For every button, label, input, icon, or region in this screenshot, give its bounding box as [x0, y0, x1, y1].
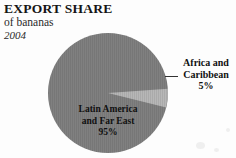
latin-label-line2: and Far East	[58, 116, 158, 128]
africa-label-line1: Africa and	[178, 57, 234, 69]
africa-label-line2: Caribbean	[178, 69, 234, 81]
slice-label-africa-and-caribbean: Africa and Caribbean 5%	[178, 57, 234, 92]
callout-leader-line	[165, 76, 178, 77]
africa-label-percent: 5%	[178, 80, 234, 92]
chart-year: 2004	[4, 29, 112, 42]
page-title: EXPORT SHARE	[4, 1, 112, 16]
slice-label-latin-america-and-far-east: Latin America and Far East 95%	[58, 104, 158, 139]
latin-label-line1: Latin America	[58, 104, 158, 116]
chart-subtitle: of bananas	[4, 16, 112, 29]
latin-label-percent: 95%	[58, 127, 158, 139]
figure-header: EXPORT SHARE of bananas 2004	[4, 1, 112, 42]
export-share-pie-chart-figure: EXPORT SHARE of bananas 2004	[0, 0, 236, 158]
